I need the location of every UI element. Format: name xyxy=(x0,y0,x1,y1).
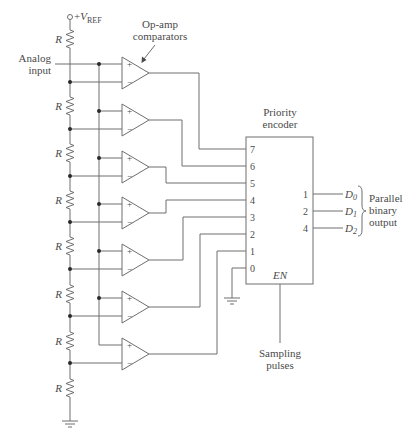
priority-encoder: Priority encoder 7 6 5 4 3 2 1 0 1 2 4 E… xyxy=(246,106,313,284)
junction-dot-icon xyxy=(68,127,72,131)
junction-dot-icon xyxy=(68,174,72,178)
comparators-label-line1: Op-amp xyxy=(142,18,179,30)
sampling-label-line1: Sampling xyxy=(259,347,302,359)
output-subscript: 1 xyxy=(353,210,357,219)
analog-input-label-line2: input xyxy=(28,64,51,76)
junction-dot-icon xyxy=(68,361,72,365)
minus-sign: − xyxy=(127,77,132,87)
wire-comparator-2-to-pin-6 xyxy=(149,120,246,166)
terminal-circle-icon xyxy=(68,15,73,20)
resistor-5-icon xyxy=(66,237,74,255)
input-pin-label: 2 xyxy=(250,229,255,240)
resistor-8-icon xyxy=(66,379,74,397)
ground-icon xyxy=(224,298,240,304)
comparator-7: + − xyxy=(122,338,149,370)
binary-outputs: D0 D1 D2 Parallel binary output xyxy=(313,186,403,236)
minus-sign: − xyxy=(127,264,132,274)
resistor-label: R xyxy=(54,100,62,112)
resistor-label: R xyxy=(54,335,62,347)
comparators-label-line2: comparators xyxy=(133,30,187,42)
resistor-1-icon xyxy=(66,30,74,48)
resistor-2-icon xyxy=(66,97,74,115)
wire-comparator-6-to-pin-2 xyxy=(149,234,246,307)
sampling-label-line2: pulses xyxy=(266,359,294,371)
output-pin-label: 4 xyxy=(303,223,308,234)
output-d1-label: D1 xyxy=(344,205,357,219)
plus-sign: + xyxy=(127,59,132,69)
resistor-label: R xyxy=(54,33,62,45)
plus-sign: + xyxy=(127,340,132,350)
output-name: D xyxy=(344,222,353,234)
input-pin-label: 4 xyxy=(250,195,255,206)
minus-sign: − xyxy=(127,171,132,181)
output-d2-label: D2 xyxy=(344,222,357,236)
junction-dot-icon xyxy=(97,202,101,206)
output-group-label-line1: Parallel xyxy=(369,192,403,204)
plus-sign: + xyxy=(127,106,132,116)
wire-pin-0-to-ground xyxy=(232,268,246,298)
comparator-1: + − xyxy=(122,57,149,89)
brace-icon xyxy=(358,186,366,236)
resistor-label: R xyxy=(54,194,62,206)
comparator-6: + − xyxy=(122,291,149,323)
wire-comparator-1-to-pin-7 xyxy=(149,73,246,149)
comparator-3: + − xyxy=(122,151,149,183)
input-pin-label: 0 xyxy=(250,263,255,274)
comparator-2: + − xyxy=(122,104,149,136)
input-pin-label: 6 xyxy=(250,161,255,172)
comparators-label: Op-amp comparators xyxy=(133,18,187,63)
input-pin-label: 7 xyxy=(250,144,255,155)
resistor-label: R xyxy=(54,147,62,159)
wire-comparator-4-to-pin-4 xyxy=(149,200,246,213)
comparator-minus-wires xyxy=(70,82,122,363)
output-group-label-line2: binary xyxy=(369,204,398,216)
plus-sign: + xyxy=(127,246,132,256)
comparator-4: + − xyxy=(122,197,149,229)
minus-sign: − xyxy=(127,124,132,134)
resistor-label: R xyxy=(54,288,62,300)
comparator-output-wires xyxy=(149,73,246,354)
pointer-arrow-icon xyxy=(144,45,155,59)
output-pin-label: 2 xyxy=(303,206,308,217)
junction-dot-icon xyxy=(68,220,72,224)
sampling-pulses: Sampling pulses xyxy=(259,284,302,371)
output-subscript: 0 xyxy=(353,193,357,202)
output-name: D xyxy=(344,188,353,200)
vref-label: +VREF xyxy=(74,10,102,25)
resistor-ladder: R R R R R R R R xyxy=(54,20,78,428)
enable-label: EN xyxy=(272,269,288,281)
input-pin-label: 1 xyxy=(250,246,255,257)
flash-adc-diagram: +VREF R R R R R R R R Analog input xyxy=(0,0,414,442)
input-pin-label: 3 xyxy=(250,212,255,223)
junction-dot-icon xyxy=(97,156,101,160)
encoder-title-line2: encoder xyxy=(263,118,298,130)
junction-dot-icon xyxy=(97,62,101,66)
minus-sign: − xyxy=(127,358,132,368)
minus-sign: − xyxy=(127,217,132,227)
plus-sign: + xyxy=(127,199,132,209)
vref-terminal: +VREF xyxy=(68,10,103,25)
resistor-6-icon xyxy=(66,285,74,303)
output-name: D xyxy=(344,205,353,217)
resistor-label: R xyxy=(54,240,62,252)
output-wires xyxy=(313,194,343,228)
wire-comparator-3-to-pin-5 xyxy=(149,167,246,183)
plus-sign: + xyxy=(127,153,132,163)
resistor-3-icon xyxy=(66,144,74,162)
encoder-title-line1: Priority xyxy=(263,106,297,118)
resistor-7-icon xyxy=(66,332,74,350)
junction-dot-icon xyxy=(97,296,101,300)
junction-dot-icon xyxy=(97,249,101,253)
comparator-plus-wires xyxy=(99,111,122,298)
analog-input-label-line1: Analog xyxy=(19,52,52,64)
input-pin-label: 5 xyxy=(250,178,255,189)
junction-dot-icon xyxy=(68,314,72,318)
output-pin-label: 1 xyxy=(303,189,308,200)
comparator-5: + − xyxy=(122,244,149,276)
output-d0-label: D0 xyxy=(344,188,357,202)
output-group-label-line3: output xyxy=(369,216,397,228)
junction-dot-icon xyxy=(97,109,101,113)
minus-sign: − xyxy=(127,311,132,321)
resistor-4-icon xyxy=(66,191,74,209)
junction-dot-icon xyxy=(68,80,72,84)
